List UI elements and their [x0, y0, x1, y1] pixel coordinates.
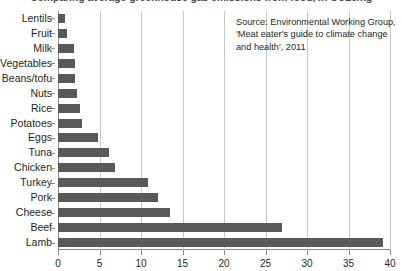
y-axis-tick — [51, 108, 55, 109]
bar — [58, 119, 82, 128]
x-axis-tick — [390, 250, 391, 255]
y-axis-category-label: Potatoes — [11, 118, 52, 129]
y-axis-category-label: Tuna — [28, 147, 52, 158]
x-axis-tick-label: 35 — [343, 258, 354, 269]
x-axis-tick-label: 15 — [177, 258, 188, 269]
y-axis-category-label: Lentils — [22, 13, 52, 24]
y-axis-tick — [51, 63, 55, 64]
bar — [58, 133, 98, 142]
bar — [58, 74, 75, 83]
y-axis-tick — [51, 168, 55, 169]
x-axis-tick — [307, 250, 308, 255]
bar — [58, 208, 170, 217]
y-axis-tick — [51, 228, 55, 229]
y-axis-category-label: Beef — [30, 222, 52, 233]
y-axis-category-label: Milk — [33, 43, 52, 54]
x-axis-tick — [266, 250, 267, 255]
chart-title: Comparing average greenhouse gas emissio… — [0, 0, 402, 5]
y-axis-tick — [51, 153, 55, 154]
bar — [58, 163, 115, 172]
x-axis-tick — [224, 250, 225, 255]
y-axis-tick — [51, 243, 55, 244]
gridline — [224, 11, 225, 250]
y-axis-category-label: Vegetables — [0, 58, 52, 69]
bar — [58, 89, 77, 98]
source-annotation-line: 'Meat eater's guide to climate change — [236, 28, 394, 40]
y-axis-category-label: Eggs — [28, 132, 52, 143]
y-axis-tick — [51, 213, 55, 214]
x-axis-tick-label: 5 — [97, 258, 103, 269]
x-axis-tick — [349, 250, 350, 255]
x-axis-tick-label: 20 — [218, 258, 229, 269]
bar — [58, 29, 67, 38]
y-axis-category-labels: LentilsFruitMilkVegetablesBeans/tofuNuts… — [0, 11, 55, 250]
source-annotation-line: and health', 2011 — [236, 41, 394, 53]
y-axis-category-label: Fruit — [31, 28, 52, 39]
y-axis-tick — [51, 183, 55, 184]
x-axis-tick — [58, 250, 59, 255]
y-axis-category-label: Lamb — [26, 237, 52, 248]
bar — [58, 178, 148, 187]
y-axis-category-label: Cheese — [16, 207, 52, 218]
y-axis-tick — [51, 48, 55, 49]
bar — [58, 14, 65, 23]
x-axis-tick-label: 10 — [135, 258, 146, 269]
bar — [58, 238, 383, 247]
y-axis-category-label: Turkey — [20, 177, 52, 188]
y-axis-tick — [51, 93, 55, 94]
y-axis-tick — [51, 33, 55, 34]
y-axis-tick — [51, 138, 55, 139]
y-axis-category-label: Beans/tofu — [2, 73, 52, 84]
y-axis-tick — [51, 198, 55, 199]
y-axis-tick — [51, 18, 55, 19]
bar — [58, 44, 74, 53]
bar — [58, 193, 158, 202]
y-axis-category-label: Nuts — [30, 88, 52, 99]
x-axis-tick-label: 30 — [301, 258, 312, 269]
x-axis-tick-label: 40 — [384, 258, 395, 269]
x-axis-tick-label: 0 — [55, 258, 61, 269]
y-axis-tick — [51, 123, 55, 124]
x-axis-tick — [100, 250, 101, 255]
y-axis-category-label: Pork — [30, 192, 52, 203]
x-axis-tick — [141, 250, 142, 255]
bar — [58, 223, 282, 232]
source-annotation-line: Source: Environmental Working Group, — [236, 16, 394, 28]
y-axis-tick — [51, 78, 55, 79]
bar — [58, 104, 80, 113]
chart-container: Comparing average greenhouse gas emissio… — [0, 0, 402, 271]
source-annotation: Source: Environmental Working Group,'Mea… — [232, 14, 394, 53]
x-axis-tick-label: 25 — [260, 258, 271, 269]
gridline — [183, 11, 184, 250]
y-axis-category-label: Rice — [31, 103, 52, 114]
y-axis-category-label: Chicken — [14, 162, 52, 173]
bar — [58, 148, 109, 157]
x-axis-tick — [183, 250, 184, 255]
bar — [58, 59, 75, 68]
